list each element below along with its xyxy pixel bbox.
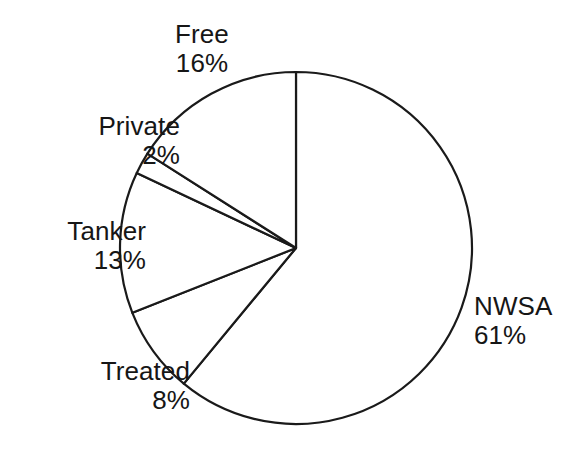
slice-label-treated: Treated 8% — [44, 357, 190, 415]
slice-label-free-percent: 16% — [138, 49, 266, 78]
slice-label-treated-percent: 8% — [44, 386, 190, 415]
slice-label-free: Free 16% — [138, 20, 266, 78]
pie-chart-figure: Free 16% Private 2% Tanker 13% Treated 8… — [0, 0, 578, 454]
slice-label-tanker: Tanker 13% — [14, 217, 146, 275]
slice-label-free-name: Free — [138, 20, 266, 49]
slice-label-treated-name: Treated — [44, 357, 190, 386]
slice-label-nwsa-percent: 61% — [474, 321, 578, 350]
slice-label-tanker-percent: 13% — [14, 246, 146, 275]
slice-label-tanker-name: Tanker — [14, 217, 146, 246]
slice-label-nwsa-name: NWSA — [474, 292, 578, 321]
slice-label-private-name: Private — [34, 112, 180, 141]
slice-label-private: Private 2% — [34, 112, 180, 170]
slice-label-private-percent: 2% — [34, 141, 180, 170]
slice-label-nwsa: NWSA 61% — [474, 292, 578, 350]
